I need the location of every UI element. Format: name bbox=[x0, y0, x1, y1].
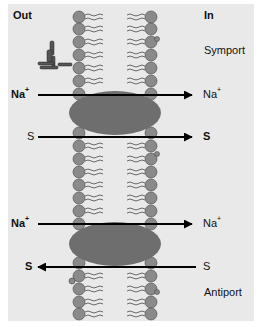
antiport-s-in-label: S bbox=[203, 260, 210, 272]
right-lipid-layer bbox=[127, 11, 160, 320]
symport-na-out-label: Na+ bbox=[11, 88, 29, 100]
symporter-protein bbox=[69, 91, 161, 135]
out-label: Out bbox=[13, 9, 32, 21]
glycan-chain-icon bbox=[38, 41, 72, 69]
symport-na-in-label: Na+ bbox=[203, 88, 221, 100]
symport-label: Symport bbox=[204, 44, 245, 56]
antiport-label: Antiport bbox=[204, 286, 242, 298]
symport-s-out-label: S bbox=[27, 130, 34, 142]
in-label: In bbox=[204, 9, 214, 21]
antiporter-protein bbox=[69, 222, 161, 266]
antiport-na-in-label: Na+ bbox=[203, 217, 221, 229]
antiport-s-out-label: S bbox=[25, 260, 32, 272]
antiport-na-out-label: Na+ bbox=[11, 217, 29, 229]
symport-s-in-label: S bbox=[203, 130, 210, 142]
left-lipid-layer bbox=[69, 11, 103, 320]
